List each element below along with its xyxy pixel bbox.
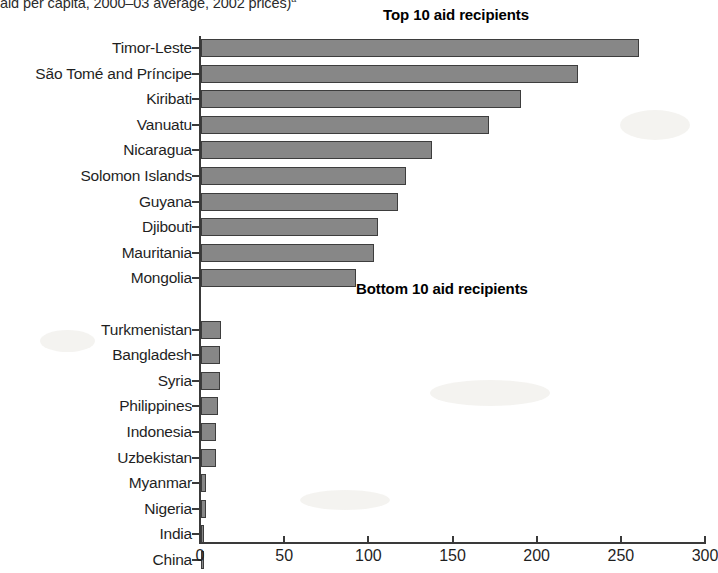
bar-row-label-holder: Turkmenistan bbox=[0, 318, 192, 342]
bar bbox=[201, 193, 398, 211]
y-axis-tick bbox=[192, 380, 201, 382]
bar-row-label-holder: Guyana bbox=[0, 190, 192, 214]
bar-row: Nicaragua bbox=[0, 138, 714, 162]
bar bbox=[201, 141, 432, 159]
y-axis-tick bbox=[192, 226, 201, 228]
bar-row: Indonesia bbox=[0, 420, 714, 444]
y-axis-tick bbox=[192, 431, 201, 433]
category-label: Myanmar bbox=[2, 471, 192, 495]
category-label: Guyana bbox=[2, 190, 192, 214]
bar bbox=[201, 116, 489, 134]
bar-row: Guyana bbox=[0, 190, 714, 214]
bar-row: Bangladesh bbox=[0, 343, 714, 367]
bar-row: Mauritania bbox=[0, 241, 714, 265]
bar-row-label-holder: São Tomé and Príncipe bbox=[0, 62, 192, 86]
bar bbox=[201, 500, 206, 518]
x-axis-tick-label: 100 bbox=[355, 547, 382, 565]
bar bbox=[201, 449, 216, 467]
x-axis-tick-label: 250 bbox=[607, 547, 634, 565]
bar bbox=[201, 321, 221, 339]
y-axis-tick bbox=[192, 277, 201, 279]
bar-row: Myanmar bbox=[0, 471, 714, 495]
y-axis-tick bbox=[192, 354, 201, 356]
category-label: Turkmenistan bbox=[2, 318, 192, 342]
category-label: Indonesia bbox=[2, 420, 192, 444]
category-label: Nicaragua bbox=[2, 138, 192, 162]
y-axis-tick bbox=[192, 508, 201, 510]
bar-row: Solomon Islands bbox=[0, 164, 714, 188]
bar-row: Philippines bbox=[0, 394, 714, 418]
bar-row-label-holder: Djibouti bbox=[0, 215, 192, 239]
category-label: Mauritania bbox=[2, 241, 192, 265]
category-label: Vanuatu bbox=[2, 113, 192, 137]
bar bbox=[201, 244, 374, 262]
category-label: Uzbekistan bbox=[2, 446, 192, 470]
y-axis-tick bbox=[192, 73, 201, 75]
bar-row: São Tomé and Príncipe bbox=[0, 62, 714, 86]
y-axis-tick bbox=[192, 329, 201, 331]
bar bbox=[201, 90, 521, 108]
top-group-heading: Top 10 aid recipients bbox=[383, 6, 529, 23]
bar-row: Uzbekistan bbox=[0, 446, 714, 470]
x-axis-tick-label: 50 bbox=[275, 547, 293, 565]
bar-row-label-holder: China bbox=[0, 548, 192, 572]
bar-row: Syria bbox=[0, 369, 714, 393]
x-axis-tick-label: 0 bbox=[196, 547, 205, 565]
bar bbox=[201, 474, 206, 492]
y-axis-tick bbox=[192, 457, 201, 459]
y-axis-tick bbox=[192, 175, 201, 177]
bar-row: India bbox=[0, 522, 714, 546]
y-axis-tick bbox=[192, 98, 201, 100]
bar-row-label-holder: Kiribati bbox=[0, 87, 192, 111]
bar-row: Vanuatu bbox=[0, 113, 714, 137]
bar bbox=[201, 167, 406, 185]
bar-row: Mongolia bbox=[0, 266, 714, 290]
bar-row: Djibouti bbox=[0, 215, 714, 239]
bar bbox=[201, 423, 216, 441]
category-label: São Tomé and Príncipe bbox=[2, 62, 192, 86]
y-axis-tick bbox=[192, 252, 201, 254]
bar-row-label-holder: Timor-Leste bbox=[0, 36, 192, 60]
x-axis-tick-label: 300 bbox=[692, 547, 718, 565]
y-axis-tick bbox=[192, 47, 201, 49]
bar bbox=[201, 218, 378, 236]
bar-row-label-holder: Vanuatu bbox=[0, 113, 192, 137]
y-axis-tick bbox=[192, 149, 201, 151]
bar bbox=[201, 65, 578, 83]
category-label: China bbox=[2, 548, 192, 572]
category-label: Solomon Islands bbox=[2, 164, 192, 188]
bar bbox=[201, 372, 220, 390]
bar-row-label-holder: Indonesia bbox=[0, 420, 192, 444]
x-axis-tick bbox=[283, 536, 285, 544]
bar-row-label-holder: Syria bbox=[0, 369, 192, 393]
category-label: India bbox=[2, 522, 192, 546]
category-label: Kiribati bbox=[2, 87, 192, 111]
bar bbox=[201, 525, 204, 543]
bar-row: Timor-Leste bbox=[0, 36, 714, 60]
category-label: Syria bbox=[2, 369, 192, 393]
category-label: Philippines bbox=[2, 394, 192, 418]
bar-row-label-holder: Bangladesh bbox=[0, 343, 192, 367]
category-label: Nigeria bbox=[2, 497, 192, 521]
y-axis-tick bbox=[192, 405, 201, 407]
bar-row-label-holder: Mongolia bbox=[0, 266, 192, 290]
x-axis-tick bbox=[536, 536, 538, 544]
bar-row: Kiribati bbox=[0, 87, 714, 111]
category-label: Mongolia bbox=[2, 266, 192, 290]
bar-row-label-holder: Myanmar bbox=[0, 471, 192, 495]
bar-row: Turkmenistan bbox=[0, 318, 714, 342]
bar bbox=[201, 39, 639, 57]
category-label: Djibouti bbox=[2, 215, 192, 239]
bar-row-label-holder: Nigeria bbox=[0, 497, 192, 521]
x-axis-tick bbox=[199, 536, 201, 544]
x-axis-tick-label: 150 bbox=[439, 547, 466, 565]
bar-row-label-holder: Solomon Islands bbox=[0, 164, 192, 188]
y-axis-tick bbox=[192, 201, 201, 203]
bar-row: Nigeria bbox=[0, 497, 714, 521]
category-label: Bangladesh bbox=[2, 343, 192, 367]
bar-row-label-holder: Mauritania bbox=[0, 241, 192, 265]
category-label: Timor-Leste bbox=[2, 36, 192, 60]
x-axis-tick bbox=[620, 536, 622, 544]
y-axis-tick bbox=[192, 124, 201, 126]
